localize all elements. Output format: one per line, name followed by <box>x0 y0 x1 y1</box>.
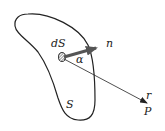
label-alpha: α <box>76 53 84 66</box>
label-r: r <box>146 89 152 102</box>
surface-outline <box>15 14 95 120</box>
label-P: P <box>143 105 152 118</box>
surface-integral-diagram: dS n α S r P <box>0 0 165 131</box>
label-S: S <box>66 98 74 111</box>
label-dS: dS <box>51 37 66 50</box>
label-n: n <box>106 37 113 50</box>
